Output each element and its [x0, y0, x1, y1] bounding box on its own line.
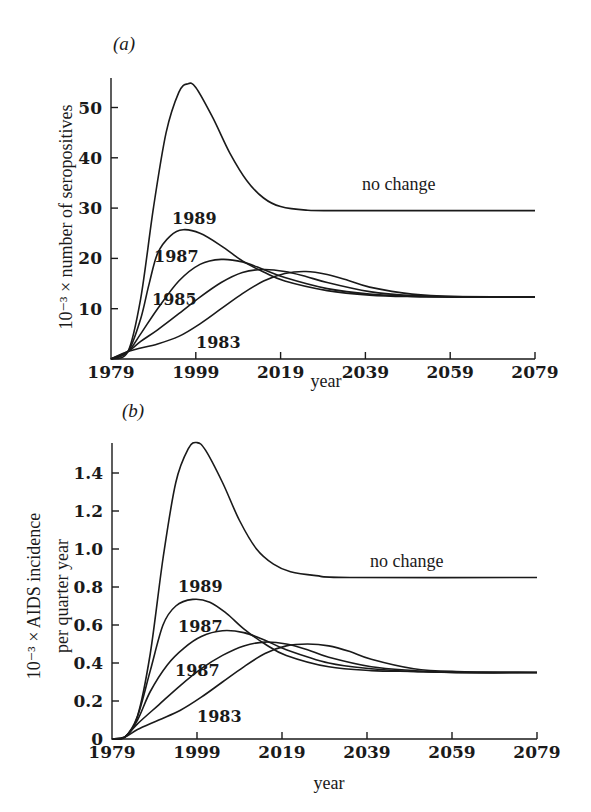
series-label-no-change: no change — [370, 551, 443, 571]
panel-b-aids-incidence-chart: (b)00.20.40.60.81.01.21.4197919992019203… — [24, 400, 561, 793]
series-label-1985: 1987 — [175, 661, 220, 680]
x-tick-label: 1979 — [87, 362, 134, 382]
x-tick-label: 2059 — [428, 742, 475, 762]
x-tick-label: 1999 — [172, 362, 219, 382]
series-label-1987: 1987 — [154, 247, 199, 266]
x-tick-label: 2019 — [258, 742, 305, 762]
y-tick-label: 0.8 — [73, 577, 103, 597]
series-label-1985: 1985 — [152, 290, 197, 309]
axis-lines — [112, 443, 537, 739]
x-axis-title: year — [314, 773, 345, 793]
curve-no-change — [112, 442, 537, 739]
series-label-1989: 1989 — [172, 209, 217, 228]
y-axis-title-line1: 10⁻³ × AIDS incidence — [24, 513, 44, 680]
figure: (a)1020304050197919992019203920592079yea… — [0, 0, 591, 812]
x-axis-title: year — [311, 371, 342, 391]
y-tick-label: 0.2 — [73, 691, 103, 711]
series-label-no-change: no change — [362, 174, 435, 194]
x-tick-label: 2079 — [513, 742, 560, 762]
series-label-1983: 1983 — [197, 707, 242, 726]
curve-1987 — [112, 631, 537, 740]
panel-label: (a) — [113, 33, 135, 55]
x-tick-label: 1999 — [173, 742, 220, 762]
x-tick-label: 2079 — [511, 362, 558, 382]
y-tick-label: 10 — [78, 299, 102, 319]
curve-1985 — [112, 642, 537, 739]
y-tick-label: 0.4 — [73, 653, 103, 673]
x-tick-label: 2019 — [257, 362, 304, 382]
y-tick-label: 0.6 — [73, 615, 103, 635]
panel-label: (b) — [122, 400, 144, 422]
x-tick-label: 1979 — [88, 742, 135, 762]
y-axis-title: 10⁻³ × number of seropositives — [56, 104, 76, 329]
series-label-1989: 1989 — [178, 577, 223, 596]
y-tick-label: 1.4 — [73, 463, 103, 483]
panel-a-seropositives-chart: (a)1020304050197919992019203920592079yea… — [56, 33, 559, 391]
x-tick-label: 2039 — [342, 362, 389, 382]
y-tick-label: 1.0 — [73, 539, 103, 559]
x-tick-label: 2059 — [427, 362, 474, 382]
x-tick-label: 2039 — [343, 742, 390, 762]
y-tick-label: 30 — [78, 198, 102, 218]
curve-1983 — [112, 644, 537, 739]
y-tick-label: 20 — [78, 248, 102, 268]
y-tick-label: 40 — [78, 148, 102, 168]
y-axis-title-line2: per quarter year — [52, 539, 72, 653]
curve-1985 — [111, 269, 535, 359]
y-tick-label: 50 — [78, 98, 102, 118]
y-tick-label: 1.2 — [73, 501, 103, 521]
series-label-1983: 1983 — [196, 333, 241, 352]
series-label-1987: 1987 — [178, 617, 223, 636]
